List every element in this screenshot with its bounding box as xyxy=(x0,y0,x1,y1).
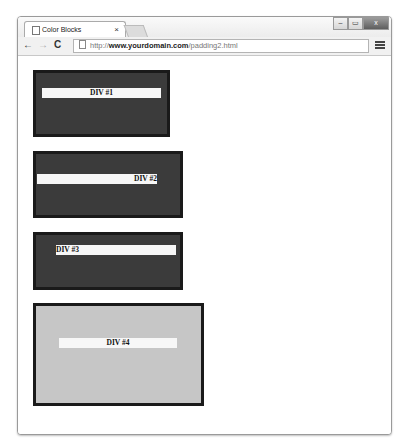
page-icon xyxy=(32,26,40,35)
browser-window: Color Blocks × – ▭ x ← → C http://www.yo… xyxy=(17,16,392,435)
div-4-label: DIV #4 xyxy=(59,338,177,348)
tab-title: Color Blocks xyxy=(42,26,81,33)
wrench-menu-icon[interactable] xyxy=(375,41,385,50)
url-prefix: http:// xyxy=(90,41,109,50)
tab-close-icon[interactable]: × xyxy=(114,25,119,34)
page-viewport: DIV #1 DIV #2 DIV #3 DIV #4 xyxy=(18,56,391,434)
div-3-label: DIV #3 xyxy=(56,245,176,255)
reload-button[interactable]: C xyxy=(54,39,61,50)
close-window-button[interactable]: x xyxy=(363,17,389,30)
div-2-label: DIV #2 xyxy=(37,174,157,184)
url-domain: www.yourdomain.com xyxy=(109,41,189,50)
div-1: DIV #1 xyxy=(33,70,170,137)
div-4: DIV #4 xyxy=(33,303,204,406)
forward-button[interactable]: → xyxy=(38,39,48,50)
back-button[interactable]: ← xyxy=(23,39,33,50)
window-controls: – ▭ x xyxy=(333,17,389,29)
url-path: /padding2.html xyxy=(189,41,238,50)
title-bar: Color Blocks × – ▭ x xyxy=(18,17,391,37)
address-bar[interactable]: http://www.yourdomain.com/padding2.html xyxy=(73,39,369,53)
tab-color-blocks[interactable]: Color Blocks × xyxy=(24,21,126,38)
minimize-button[interactable]: – xyxy=(333,17,348,30)
toolbar: ← → C http://www.yourdomain.com/padding2… xyxy=(18,37,391,56)
div-1-label: DIV #1 xyxy=(42,88,161,98)
div-3: DIV #3 xyxy=(33,232,183,290)
maximize-button[interactable]: ▭ xyxy=(348,17,363,30)
div-2: DIV #2 xyxy=(33,151,183,218)
page-icon xyxy=(79,40,86,49)
